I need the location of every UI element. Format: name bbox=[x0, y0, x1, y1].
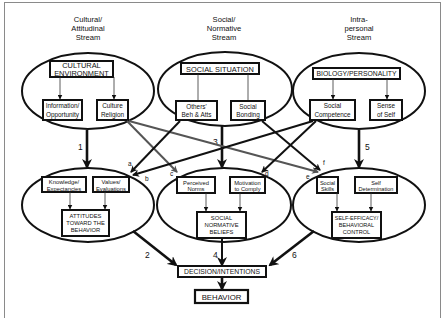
svg-text:of Self: of Self bbox=[377, 111, 395, 118]
stream-title-intrapersonal: Intra- personal Stream bbox=[344, 15, 373, 42]
box-others-beh-atts: Others' Beh & Atts bbox=[176, 101, 217, 120]
path-number-2: 2 bbox=[145, 250, 150, 260]
svg-text:Evaluations: Evaluations bbox=[96, 186, 126, 192]
path-letter-f: f bbox=[323, 159, 325, 166]
svg-text:Social: Social bbox=[320, 180, 335, 186]
svg-text:Perceived: Perceived bbox=[183, 180, 209, 186]
theory-of-triadic-influence-diagram: Cultural/ Attitudinal Stream Social/ Nor… bbox=[0, 0, 448, 318]
path-number-1: 1 bbox=[78, 142, 83, 152]
stream-title-cultural: Cultural/ Attitudinal Stream bbox=[71, 15, 105, 42]
svg-text:Competence: Competence bbox=[314, 111, 351, 119]
svg-text:Motivation: Motivation bbox=[234, 180, 260, 186]
box-cultural-environment: CULTURAL ENVIRONMENT bbox=[50, 61, 113, 78]
box-social-skills: Social Skills bbox=[317, 177, 338, 193]
svg-text:Stream: Stream bbox=[76, 33, 100, 42]
box-self-efficacy-behavioral-control: SELF-EFFICACY/ BEHAVIORAL CONTROL bbox=[332, 212, 381, 238]
svg-text:Expectancies: Expectancies bbox=[47, 186, 82, 192]
svg-text:ATTITUDES: ATTITUDES bbox=[70, 213, 102, 219]
box-decision-intentions: DECISION/INTENTIONS bbox=[178, 266, 266, 277]
svg-text:Stream: Stream bbox=[347, 33, 371, 42]
svg-text:Knowledge/: Knowledge/ bbox=[49, 179, 80, 185]
box-attitudes-toward-behavior: ATTITUDES TOWARD THE BEHAVIOR bbox=[62, 210, 109, 236]
path-number-6: 6 bbox=[292, 250, 297, 260]
svg-text:Normative: Normative bbox=[207, 24, 242, 33]
svg-text:NORMATIVE: NORMATIVE bbox=[204, 222, 238, 228]
box-culture-religion: Culture Religion bbox=[97, 100, 128, 120]
svg-text:BEHAVIOR: BEHAVIOR bbox=[71, 227, 101, 233]
path-letter-a: a bbox=[128, 160, 132, 167]
svg-text:Determination: Determination bbox=[359, 186, 394, 192]
svg-text:DECISION/INTENTIONS: DECISION/INTENTIONS bbox=[184, 268, 260, 275]
svg-text:Others': Others' bbox=[186, 103, 206, 110]
svg-text:Skills: Skills bbox=[321, 186, 334, 192]
svg-text:Religion: Religion bbox=[101, 111, 125, 119]
svg-text:BELIEFS: BELIEFS bbox=[210, 229, 234, 235]
svg-text:Social: Social bbox=[239, 103, 256, 110]
path-number-5: 5 bbox=[365, 142, 370, 152]
svg-text:Stream: Stream bbox=[212, 33, 236, 42]
svg-text:BEHAVIORAL: BEHAVIORAL bbox=[339, 222, 374, 228]
path-2-arrow bbox=[133, 231, 176, 265]
svg-text:Social/: Social/ bbox=[213, 15, 237, 24]
svg-text:Sense: Sense bbox=[377, 102, 396, 109]
box-behavior: BEHAVIOR bbox=[195, 290, 248, 303]
svg-text:Culture: Culture bbox=[102, 102, 123, 109]
box-social-situation: SOCIAL SITUATION bbox=[181, 63, 259, 74]
path-letter-e: e bbox=[306, 173, 310, 180]
svg-text:Values/: Values/ bbox=[102, 179, 121, 185]
svg-text:SOCIAL SITUATION: SOCIAL SITUATION bbox=[186, 65, 254, 74]
box-values-evaluations: Values/ Evaluations bbox=[93, 177, 129, 192]
path-letter-b: b bbox=[145, 175, 149, 182]
svg-text:Social: Social bbox=[324, 102, 341, 109]
svg-text:Information/: Information/ bbox=[46, 102, 80, 109]
box-biology-personality: BIOLOGY/PERSONALITY bbox=[313, 68, 400, 79]
svg-text:Beh & Atts: Beh & Atts bbox=[182, 111, 212, 118]
svg-text:BEHAVIOR: BEHAVIOR bbox=[202, 293, 242, 302]
box-knowledge-expectancies: Knowledge/ Expectancies bbox=[42, 177, 86, 192]
svg-text:Opportunity: Opportunity bbox=[46, 111, 80, 119]
box-perceived-norms: Perceived Norms bbox=[177, 177, 215, 193]
svg-text:Bonding: Bonding bbox=[236, 111, 260, 119]
box-sense-of-self: Sense of Self bbox=[370, 100, 402, 120]
svg-text:Norms: Norms bbox=[187, 186, 204, 192]
box-motivation-to-comply: Motivation to Comply bbox=[230, 177, 265, 193]
svg-text:to Comply: to Comply bbox=[234, 186, 260, 192]
path-number-4: 4 bbox=[213, 250, 218, 260]
svg-text:Attitudinal: Attitudinal bbox=[71, 24, 105, 33]
svg-text:personal: personal bbox=[344, 24, 373, 33]
svg-text:ENVIRONMENT: ENVIRONMENT bbox=[54, 69, 109, 78]
stream-title-social: Social/ Normative Stream bbox=[207, 15, 242, 42]
svg-text:BIOLOGY/PERSONALITY: BIOLOGY/PERSONALITY bbox=[316, 70, 397, 77]
box-social-competence: Social Competence bbox=[310, 100, 355, 120]
box-self-determination: Self Determination bbox=[355, 177, 397, 193]
box-social-bonding: Social Bonding bbox=[231, 101, 265, 120]
svg-text:Intra-: Intra- bbox=[350, 15, 368, 24]
svg-text:TOWARD THE: TOWARD THE bbox=[66, 220, 105, 226]
path-letter-c: c bbox=[170, 170, 174, 177]
svg-text:SELF-EFFICACY/: SELF-EFFICACY/ bbox=[335, 215, 379, 221]
svg-text:CONTROL: CONTROL bbox=[343, 229, 370, 235]
box-information-opportunity: Information/ Opportunity bbox=[43, 100, 82, 120]
svg-text:Cultural/: Cultural/ bbox=[74, 15, 103, 24]
svg-text:SOCIAL: SOCIAL bbox=[211, 215, 233, 221]
path-letter-d: d bbox=[265, 170, 269, 177]
box-social-normative-beliefs: SOCIAL NORMATIVE BELIEFS bbox=[197, 212, 246, 238]
svg-text:Self: Self bbox=[371, 180, 381, 186]
